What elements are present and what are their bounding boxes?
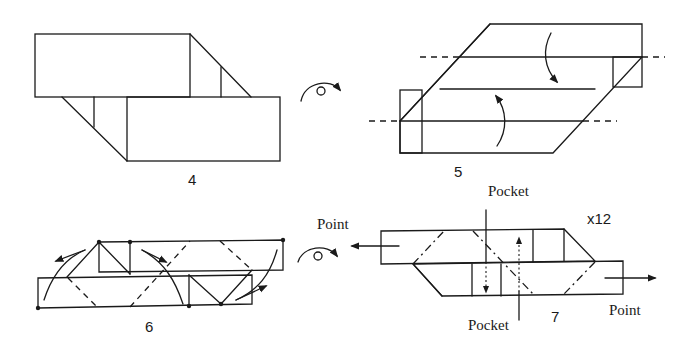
multiplier-label: x12 — [587, 210, 611, 227]
turn-over-icon — [298, 248, 337, 262]
pocket-bottom-label: Pocket — [468, 317, 510, 333]
step-7-label: 7 — [551, 308, 559, 325]
pocket-top-label: Pocket — [488, 183, 530, 199]
step-6-label: 6 — [145, 318, 153, 335]
origami-diagram: 4 5 — [0, 0, 693, 352]
step-5-figure — [369, 24, 665, 153]
step-5-label: 5 — [454, 163, 462, 180]
point-right-label: Point — [609, 302, 642, 318]
turn-over-icon — [301, 83, 340, 101]
step-4-label: 4 — [188, 171, 196, 188]
point-left-label: Point — [317, 216, 350, 232]
step-4-figure — [35, 34, 280, 161]
step-6-figure — [36, 238, 285, 310]
